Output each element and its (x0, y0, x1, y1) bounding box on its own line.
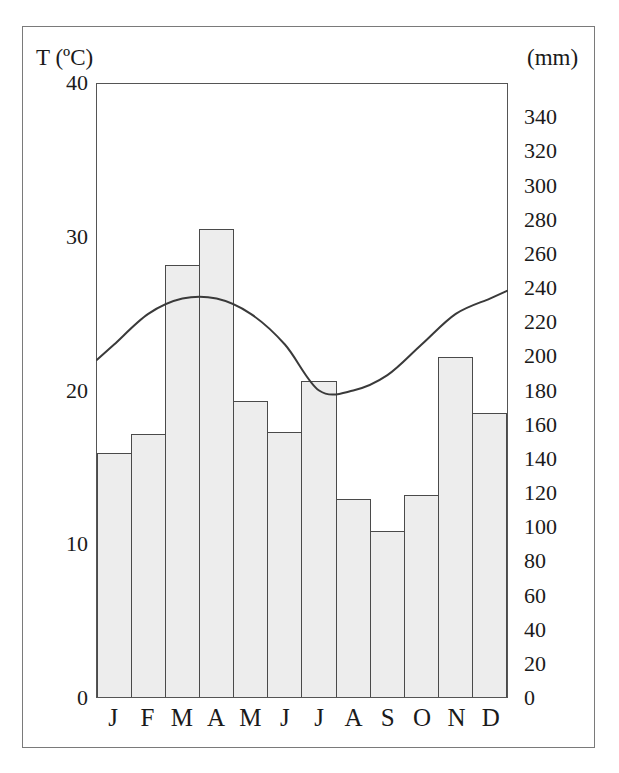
precipitation-tick-label: 60 (524, 585, 546, 607)
plot-area (96, 83, 508, 698)
month-label: N (439, 703, 473, 737)
precipitation-bar (472, 413, 507, 697)
precipitation-tick-label: 320 (524, 140, 557, 162)
precipitation-bar (438, 357, 473, 697)
precipitation-tick-label: 80 (524, 550, 546, 572)
precipitation-tick-label: 40 (524, 619, 546, 641)
month-label: J (268, 703, 302, 737)
month-label: A (336, 703, 370, 737)
month-label: J (302, 703, 336, 737)
precipitation-tick-label: 200 (524, 345, 557, 367)
precipitation-bars (97, 84, 507, 697)
climograph-figure: T (ºC) (mm) 010203040 020406080100120140… (0, 0, 619, 773)
month-axis-labels: JFMAMJJASOND (96, 703, 508, 737)
month-label: S (371, 703, 405, 737)
precipitation-tick-label: 140 (524, 448, 557, 470)
precipitation-bar (131, 434, 166, 697)
month-label: M (233, 703, 267, 737)
month-label: A (199, 703, 233, 737)
precipitation-tick-label: 160 (524, 414, 557, 436)
precipitation-tick-label: 0 (524, 687, 535, 709)
precipitation-tick-label: 260 (524, 243, 557, 265)
precipitation-tick-label: 180 (524, 380, 557, 402)
precipitation-bar (404, 495, 439, 697)
month-label: M (165, 703, 199, 737)
precipitation-tick-label: 220 (524, 311, 557, 333)
precipitation-tick-label: 300 (524, 175, 557, 197)
precipitation-tick-label: 340 (524, 106, 557, 128)
temperature-tick-label: 10 (66, 533, 88, 555)
plot-inner (97, 84, 507, 697)
precipitation-tick-label: 280 (524, 209, 557, 231)
temperature-tick-label: 30 (66, 226, 88, 248)
precipitation-bar (301, 381, 336, 697)
precipitation-tick-label: 120 (524, 482, 557, 504)
precipitation-bar (233, 401, 268, 697)
month-label: D (474, 703, 508, 737)
temperature-tick-label: 40 (66, 72, 88, 94)
temperature-tick-label: 0 (77, 687, 88, 709)
precipitation-bar (370, 531, 405, 697)
month-label: F (130, 703, 164, 737)
month-label: O (405, 703, 439, 737)
precipitation-axis-caption: (mm) (527, 46, 578, 69)
precipitation-bar (97, 453, 132, 697)
precipitation-tick-label: 240 (524, 277, 557, 299)
precipitation-tick-label: 20 (524, 653, 546, 675)
precipitation-tick-label: 100 (524, 516, 557, 538)
temperature-tick-label: 20 (66, 380, 88, 402)
temperature-axis-caption: T (ºC) (36, 46, 93, 69)
precipitation-bar (267, 432, 302, 697)
precipitation-bar (199, 229, 234, 697)
precipitation-bar (336, 499, 371, 697)
precipitation-bar (165, 265, 200, 697)
month-label: J (96, 703, 130, 737)
